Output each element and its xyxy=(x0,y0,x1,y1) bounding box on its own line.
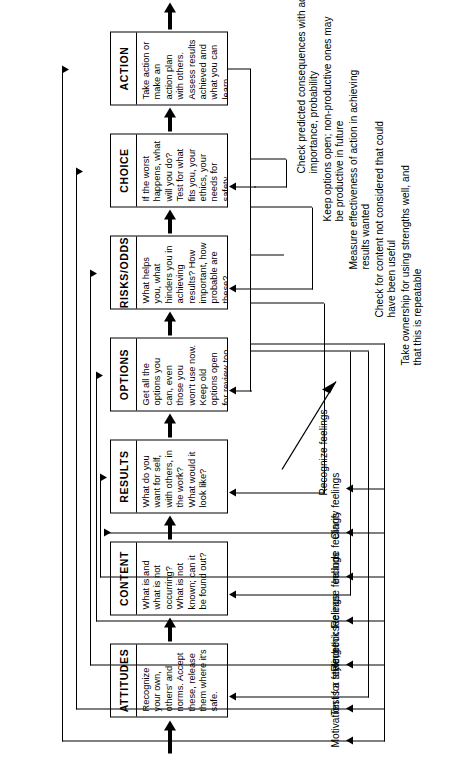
review-branch-attitudes-v xyxy=(350,350,369,351)
review-note-ownership: Take ownership for using strengths well,… xyxy=(400,150,425,365)
feedback-line-motivation xyxy=(62,69,63,741)
feelings-riser-1 xyxy=(352,740,385,741)
review-bus-from-action xyxy=(228,68,250,69)
stage-title-choice: CHOICE xyxy=(111,134,137,206)
flow-arrow-results-to-options xyxy=(168,422,172,437)
review-branch-content xyxy=(350,351,351,595)
review-note-effectiveness-text: Measure effectiveness of action in achie… xyxy=(348,69,371,269)
flow-arrow-attitudes-to-content xyxy=(168,626,172,641)
stage-box-content[interactable]: CONTENT What is and what is not occurrin… xyxy=(110,541,228,615)
feelings-bus-line xyxy=(384,343,385,741)
review-note-options-open-text: Keep options open; non-productive ones m… xyxy=(322,16,345,221)
feedback-arrowhead-include xyxy=(100,473,107,481)
diagram-stage: ATTITUDES Recognize your own, others' an… xyxy=(0,0,464,763)
feedback-riser-recheck xyxy=(90,664,352,665)
feelings-riser-2 xyxy=(352,708,385,709)
stage-body-action: Take action or make an action plan with … xyxy=(137,32,227,104)
stage-box-risks-odds[interactable]: RISKS/ODDS What helps you, what hinders … xyxy=(110,235,228,309)
review-branch-risks xyxy=(312,207,313,289)
review-note-content-check: Check for content not considered that co… xyxy=(374,102,399,317)
review-col-content-check xyxy=(250,302,324,303)
review-arrowhead-risks xyxy=(229,285,236,293)
stage-body-results: What do you want for self, with others, … xyxy=(137,440,227,512)
review-note-consequences: Check predicted consequences with actual… xyxy=(296,0,321,173)
feedback-arrowhead-recheck xyxy=(90,269,97,277)
review-branch-choice-up xyxy=(234,186,256,187)
stage-title-action: ACTION xyxy=(111,32,137,104)
feedback-arrowhead-clarify xyxy=(104,529,111,537)
stage-body-content: What is and what is not occurring? What … xyxy=(137,542,227,614)
review-branch-attitudes xyxy=(368,351,369,697)
recognize-feelings-pointer xyxy=(278,363,350,473)
review-branch-risks-v xyxy=(234,288,313,289)
feedback-line-test-style xyxy=(76,171,77,709)
review-branch-attitudes-up xyxy=(234,696,369,697)
flow-arrow-risks-to-choice xyxy=(168,218,172,233)
review-branch-results xyxy=(324,303,325,493)
feedback-arrowhead-test-style xyxy=(76,167,83,175)
stage-title-content: CONTENT xyxy=(111,542,137,614)
stage-body-attitudes: Recognize your own, others' and norms. A… xyxy=(137,644,227,716)
feedback-riser-clarify xyxy=(104,532,352,533)
stage-box-attitudes[interactable]: ATTITUDES Recognize your own, others' an… xyxy=(110,643,228,717)
review-arrowhead-attitudes xyxy=(229,693,236,701)
review-branch-consequences xyxy=(286,159,287,187)
review-branch-options xyxy=(250,255,251,391)
stage-body-choice: If the worst happens, what will you do? … xyxy=(137,134,227,206)
stage-box-choice[interactable]: CHOICE If the worst happens, what will y… xyxy=(110,133,228,207)
review-note-ownership-text: Take ownership for using strengths well,… xyxy=(400,165,423,365)
stage-body-options: Get all the options you can, even those … xyxy=(137,338,227,410)
stage-box-results[interactable]: RESULTS What do you want for self, with … xyxy=(110,439,228,513)
stage-title-attitudes: ATTITUDES xyxy=(111,644,137,716)
review-branch-options-v xyxy=(234,390,252,391)
feedback-riser-test-style xyxy=(76,708,352,709)
review-col-options-open xyxy=(250,206,312,207)
exit-arrow xyxy=(168,11,172,29)
stage-box-action[interactable]: ACTION Take action or make an action pla… xyxy=(110,31,228,105)
review-note-options-open: Keep options open; non-productive ones m… xyxy=(322,6,347,221)
review-branch-content-v xyxy=(234,594,351,595)
review-note-effectiveness: Measure effectiveness of action in achie… xyxy=(348,54,373,269)
feedback-riser-include xyxy=(100,576,352,577)
feedback-line-recheck xyxy=(90,273,91,665)
feedback-riser-motivation xyxy=(62,740,352,741)
flow-arrow-options-to-risks xyxy=(168,320,172,335)
stage-title-results: RESULTS xyxy=(111,440,137,512)
stage-title-options: OPTIONS xyxy=(111,338,137,410)
feedback-arrowhead-release xyxy=(96,371,103,379)
stage-title-risks-odds: RISKS/ODDS xyxy=(111,236,137,308)
review-arrowhead-content xyxy=(229,591,236,599)
flow-arrow-choice-to-action xyxy=(168,116,172,131)
stage-body-risks-odds: What helps you, what hinders you in achi… xyxy=(137,236,227,308)
review-branch-results-v xyxy=(234,492,325,493)
feedback-line-include xyxy=(100,477,101,577)
review-col-ownership xyxy=(250,350,350,351)
review-col-consequences xyxy=(250,158,286,159)
review-col-effectiveness xyxy=(250,254,284,255)
stage-box-options[interactable]: OPTIONS Get all the options you can, eve… xyxy=(110,337,228,411)
review-note-content-check-text: Check for content not considered that co… xyxy=(374,120,397,317)
diagram-rotation-wrapper: ATTITUDES Recognize your own, others' an… xyxy=(0,0,464,763)
diagram-canvas: ATTITUDES Recognize your own, others' an… xyxy=(0,0,464,763)
review-branch-consequences-v xyxy=(254,186,287,187)
feedback-riser-release xyxy=(96,620,352,621)
review-arrowhead-results xyxy=(229,489,236,497)
review-note-consequences-text: Check predicted consequences with actual… xyxy=(296,0,319,173)
feelings-bus-to-attitudes xyxy=(250,343,385,344)
feedback-line-release xyxy=(96,375,97,621)
feedback-arrowhead-motivation xyxy=(62,65,69,73)
